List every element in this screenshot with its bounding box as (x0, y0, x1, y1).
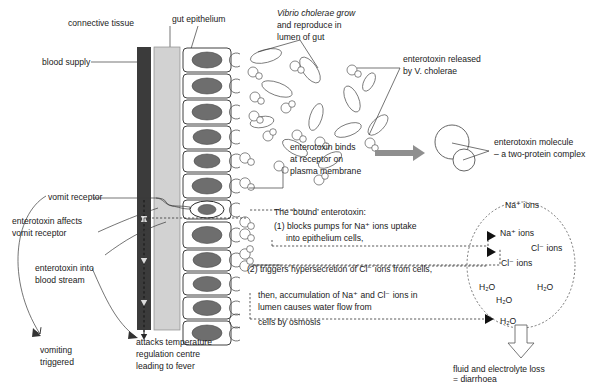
label-affects-vomit-line1: enterotoxin affects (12, 216, 82, 226)
label-bound-step1b: into epithelium cells, (286, 233, 363, 243)
label-connective-tissue: connective tissue (68, 18, 134, 28)
label-vibrio-grow-line2: and reproduce in (277, 20, 342, 30)
label-bound-step2: (2) triggers hypersecretion of Cl⁻ ions … (247, 264, 432, 274)
label-bound-step3b: lumen causes water flow from (258, 302, 372, 312)
label-binds-line3: plasma membrane (290, 166, 361, 176)
label-fever-line2: regulation centre (136, 349, 200, 359)
label-na-ions-flow: Na⁺ ions (500, 228, 534, 238)
label-bound-step1a: (1) blocks pumps for Na⁺ ions uptake (274, 221, 417, 231)
label-affects-vomit-line2: vomit receptor (12, 228, 67, 238)
label-bound-intro: The ‘bound’ enterotoxin: (274, 207, 366, 217)
label-enterotoxin-released-line1: enterotoxin released (403, 54, 481, 64)
label-water-middle: H₂O (496, 295, 513, 305)
label-blood-supply: blood supply (42, 57, 91, 67)
label-na-ions-top: Na⁺ ions (505, 200, 539, 210)
label-fever-line3: leading to fever (136, 361, 195, 371)
label-cl-ions-flow: Cl⁻ ions (501, 258, 532, 268)
label-bound-step3a: then, accumulation of Na⁺ and Cl⁻ ions i… (258, 290, 418, 300)
label-vomit-receptor: vomit receptor (48, 192, 103, 202)
label-water-flow: H₂O (500, 316, 517, 326)
label-vibrio-grow-line1: Vibrio cholerae grow (277, 8, 356, 18)
label-diarrhoea-line2: = diarrhoea (453, 374, 497, 384)
label-cl-ions-right: Cl⁻ ions (531, 243, 562, 253)
label-vomiting-line2: triggered (40, 357, 74, 367)
label-fever-line1: attacks temperature (136, 337, 212, 347)
label-vomiting-line1: vomiting (40, 345, 72, 355)
label-vibrio-grow-line3: lumen of gut (277, 32, 325, 42)
label-into-blood-line2: blood stream (35, 275, 85, 285)
label-enterotoxin-molecule-line1: enterotoxin molecule (494, 137, 574, 147)
label-water-left: H₂O (479, 282, 496, 292)
label-bound-step3c: cells by osmosis (258, 317, 321, 327)
label-enterotoxin-molecule-line2: – a two-protein complex (494, 149, 586, 159)
label-diarrhoea-line1: fluid and electrolyte loss (453, 364, 545, 374)
diagram-canvas: connective tissue gut epithelium blood s… (0, 0, 596, 384)
label-gut-epithelium: gut epithelium (172, 14, 226, 24)
label-binds-line2: at receptor on (290, 154, 343, 164)
label-binds-line1: enterotoxin binds (290, 142, 355, 152)
label-into-blood-line1: enterotoxin into (35, 263, 94, 273)
label-enterotoxin-released-line2: by V. cholerae (403, 66, 457, 76)
label-water-right: H₂O (537, 282, 554, 292)
